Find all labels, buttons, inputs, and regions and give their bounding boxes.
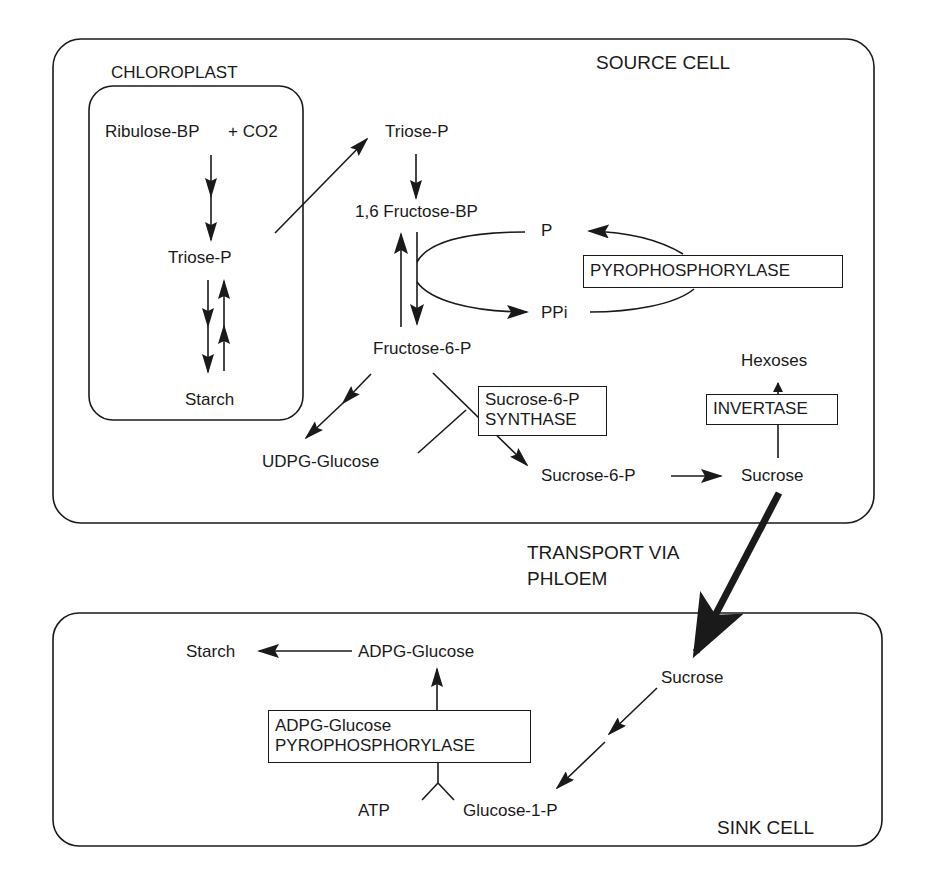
udpg-glucose-label: UDPG-Glucose: [262, 453, 379, 470]
sink-starch-label: Starch: [186, 643, 235, 660]
invertase-label: INVERTASE: [713, 399, 831, 419]
ppi-label: PPi: [541, 304, 567, 321]
atp-label: ATP: [358, 802, 390, 819]
sucrose-synthase-line-1: Sucrose-6-P: [485, 390, 600, 410]
chloroplast-label: CHLOROPLAST: [111, 64, 238, 81]
source-sucrose-label: Sucrose: [741, 467, 803, 484]
glucose-1p-label: Glucose-1-P: [463, 802, 557, 819]
sucrose-synthase-enzyme-box: Sucrose-6-P SYNTHASE: [478, 386, 607, 436]
transport-label-line-2: PHLOEM: [527, 569, 607, 588]
sucrose-6p-label: Sucrose-6-P: [541, 467, 635, 484]
hexoses-label: Hexoses: [741, 352, 807, 369]
co2-label: + CO2: [228, 123, 278, 140]
sucrose-synthase-line-2: SYNTHASE: [485, 410, 600, 430]
p-label: P: [541, 222, 552, 239]
transport-label-line-1: TRANSPORT VIA: [527, 543, 679, 562]
cytosol-triose-p-label: Triose-P: [385, 123, 449, 140]
adpg-pyrophosphorylase-enzyme-box: ADPG-Glucose PYROPHOSPHORYLASE: [268, 710, 531, 763]
fructose-bp-label: 1,6 Fructose-BP: [355, 203, 478, 220]
chloroplast-triose-p-label: Triose-P: [168, 249, 232, 266]
adpg-pyrophosphorylase-line-2: PYROPHOSPHORYLASE: [275, 736, 524, 756]
fructose-6p-label: Fructose-6-P: [373, 340, 471, 357]
sink-sucrose-label: Sucrose: [661, 669, 723, 686]
invertase-enzyme-box: INVERTASE: [706, 394, 838, 425]
source-cell-label: SOURCE CELL: [596, 53, 730, 72]
adpg-pyrophosphorylase-line-1: ADPG-Glucose: [275, 716, 524, 736]
sink-cell-label: SINK CELL: [717, 818, 814, 837]
ribulose-bp-label: Ribulose-BP: [105, 123, 200, 140]
pyrophosphorylase-label: PYROPHOSPHORYLASE: [590, 261, 836, 281]
sink-adpg-glucose-label: ADPG-Glucose: [358, 643, 474, 660]
chloroplast-starch-label: Starch: [185, 391, 234, 408]
pyrophosphorylase-enzyme-box: PYROPHOSPHORYLASE: [583, 255, 843, 288]
